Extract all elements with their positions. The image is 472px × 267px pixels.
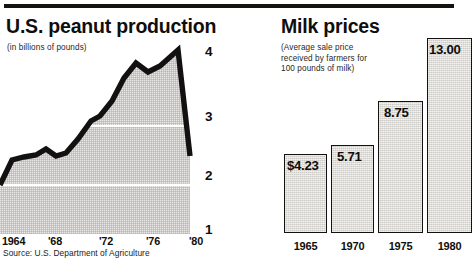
milk-bar-category-1965: 1965 [284,240,327,252]
peanut-y-tick-2: 2 [205,168,213,183]
milk-bar-group-1965: $4.23 [284,33,327,233]
peanut-area-fill [0,50,190,234]
milk-prices-chart-panel: Milk prices (Average sale price received… [228,10,458,267]
milk-bar-1975 [378,101,423,233]
peanut-y-tick-1: 1 [205,222,213,237]
peanut-x-tick-80: '80 [189,235,203,247]
peanut-x-tick-72: '72 [99,235,113,247]
milk-bar-group-1975: 8.75 [378,33,423,233]
milk-bar-value-1970: 5.71 [337,149,361,164]
peanut-chart-title: U.S. peanut production [6,15,216,38]
peanut-area-svg [0,38,200,234]
peanut-x-tick-76: '76 [146,235,160,247]
milk-bar-1980 [427,38,472,233]
peanut-x-tick-1964: 1964 [2,235,25,247]
milk-bar-value-1980: 13.00 [429,42,461,57]
milk-bar-value-1965: $4.23 [287,158,319,173]
peanut-area-plot [0,38,200,234]
milk-bar-group-1970: 5.71 [331,33,374,233]
peanut-y-tick-3: 3 [205,109,213,124]
peanut-x-tick-68: '68 [48,235,62,247]
peanut-production-chart-panel: U.S. peanut production (in billions of p… [0,10,228,267]
milk-bar-category-1975: 1975 [378,240,423,252]
milk-bar-group-1980: 13.00 [427,23,472,233]
peanut-chart-source: Source: U.S. Department of Agriculture [3,248,150,258]
milk-bar-category-1980: 1980 [427,240,472,252]
peanut-y-tick-4: 4 [205,44,213,59]
header-divider-rule [4,4,454,8]
milk-bar-value-1975: 8.75 [384,105,408,120]
milk-bar-category-1970: 1970 [331,240,374,252]
